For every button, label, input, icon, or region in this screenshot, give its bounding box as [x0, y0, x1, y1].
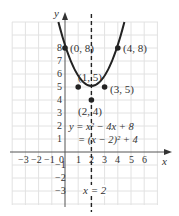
point-label-3-5: (3, 5) [110, 84, 134, 95]
x-axis-label: x [162, 156, 167, 167]
point-label-4-8: (4, 8) [123, 43, 147, 54]
symmetry-label: x = 2 [83, 185, 106, 196]
point-label-2-4: (2, 4) [78, 106, 102, 117]
point-label-1-5: (1, 5) [78, 72, 102, 83]
point-label-0-8: (0, 8) [70, 43, 94, 54]
equation-line-1: y = x² − 4x + 8 [69, 122, 134, 133]
equation-line-2: = (x − 2)² + 4 [78, 135, 138, 146]
y-axis-label: y [54, 8, 59, 19]
y-axis-arrow-icon [62, 12, 68, 20]
